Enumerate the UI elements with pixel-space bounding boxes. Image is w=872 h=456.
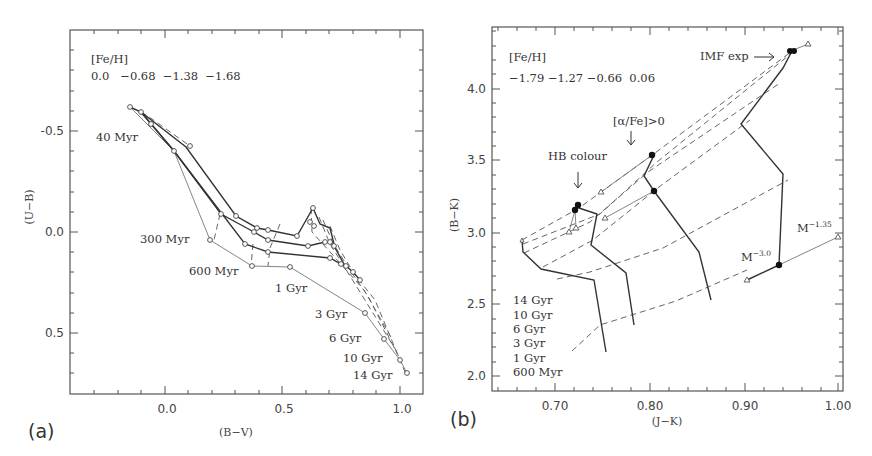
plot-b-imf-branch	[747, 265, 779, 280]
plot-b-feh-title: [Fe/H]	[509, 50, 546, 64]
svg-text:1 Gyr: 1 Gyr	[513, 351, 546, 365]
down-arrow-icon	[574, 172, 582, 188]
plot-b-xtick-1: 0.80	[637, 399, 664, 413]
plot-a-series-feh-minus0.68	[130, 107, 360, 280]
plot-a-ytick-2: 0.5	[45, 326, 64, 340]
plot-b-xtick-2: 0.90	[732, 399, 759, 413]
svg-text:10 Gyr: 10 Gyr	[513, 308, 553, 322]
plot-a-age-label: 10 Gyr	[343, 351, 383, 365]
plot-b-isochrones	[522, 49, 795, 351]
plot-b-series-feh-minus0.66	[644, 153, 711, 300]
plot-a-ylabel: (U−B)	[23, 189, 36, 224]
imf-3.0-label: M−3.0	[741, 249, 771, 264]
panel-b-label: (b)	[450, 408, 477, 430]
plot-a-age-label: 3 Gyr	[315, 307, 348, 321]
plot-b-ytick-2: 3.0	[467, 226, 486, 240]
plot-a-xtick-0: 0.0	[157, 402, 176, 416]
plot-b-age-legend: 14 Gyr 10 Gyr 6 Gyr 3 Gyr 1 Gyr 600 Myr	[513, 293, 563, 379]
plot-b-alpha-branch	[601, 153, 655, 192]
plot-b-series-feh-0.06	[741, 51, 792, 265]
plot-a-feh-title: [Fe/H]	[91, 52, 128, 66]
panel-b: 0.70 0.80 0.90 1.00 2.0 2.5 3.0 3.5 4.0 …	[448, 27, 851, 430]
panel-a-label: (a)	[28, 420, 54, 442]
plot-b-xtick-0: 0.70	[542, 399, 569, 413]
plot-a-frame	[70, 30, 423, 394]
imf-1.35-label: M−1.35	[797, 220, 832, 235]
plot-a-age-label: 6 Gyr	[329, 331, 362, 345]
plot-a-age-label: 1 Gyr	[275, 281, 308, 295]
svg-text:3 Gyr: 3 Gyr	[513, 336, 546, 350]
alpha-fe-label: [α/Fe]>0	[613, 114, 665, 128]
plot-a-ytick-0: -0.5	[41, 124, 64, 138]
svg-text:14 Gyr: 14 Gyr	[513, 293, 553, 307]
plot-a-feh-values: 0.0 −0.68 −1.38 −1.68	[91, 69, 241, 83]
plot-a-xlabel: (B−V)	[219, 426, 253, 439]
down-arrow-icon	[627, 131, 635, 145]
panel-a: 0.0 0.5 1.0 -0.5 0.0 0.5 (B−V) (U−B) (a)…	[23, 30, 423, 442]
plot-b-ylabel: (B−K)	[448, 198, 461, 232]
plot-a-xtick-2: 1.0	[392, 402, 411, 416]
hb-colour-label: HB colour	[548, 149, 608, 163]
right-arrow-icon	[754, 53, 774, 61]
plot-b-alpha-branch	[605, 191, 654, 218]
svg-text:6 Gyr: 6 Gyr	[513, 322, 546, 336]
plot-a-ytick-1: 0.0	[45, 225, 64, 239]
plot-b-xtick-3: 1.00	[825, 399, 852, 413]
plot-a-age-label: 300 Myr	[140, 232, 190, 246]
svg-text:600 Myr: 600 Myr	[513, 365, 563, 379]
figure-canvas: 0.0 0.5 1.0 -0.5 0.0 0.5 (B−V) (U−B) (a)…	[0, 0, 872, 456]
imf-exp-label: IMF exp	[700, 49, 749, 63]
plot-b-ytick-0: 2.0	[467, 369, 486, 383]
plot-a-age-label: 14 Gyr	[353, 368, 393, 382]
plot-a-xtick-1: 0.5	[274, 402, 293, 416]
plot-b-ytick-3: 3.5	[467, 153, 486, 167]
plot-b-imf-branch	[779, 237, 838, 265]
plot-b-xlabel: (J−K)	[652, 415, 682, 428]
plot-b-ytick-4: 4.0	[467, 82, 486, 96]
plot-b-ytick-1: 2.5	[467, 297, 486, 311]
plot-b-feh-values: −1.79 −1.27 −0.66 0.06	[509, 71, 655, 85]
plot-a-y-ticks	[70, 50, 423, 373]
plot-a-age-label: 40 Myr	[96, 130, 139, 144]
plot-a-age-label: 600 Myr	[189, 264, 239, 278]
